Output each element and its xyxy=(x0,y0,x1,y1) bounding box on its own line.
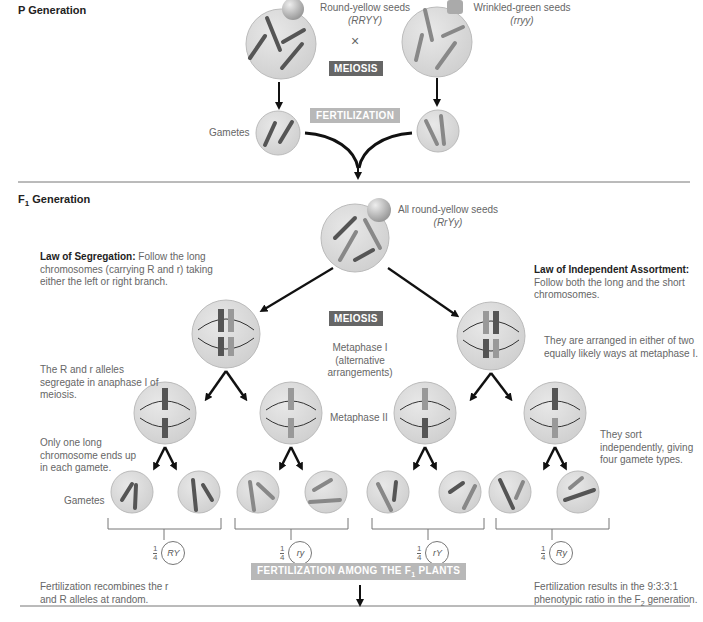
law-of-segregation: Law of Segregation: Follow the long chro… xyxy=(40,251,220,289)
cross-symbol: × xyxy=(351,35,359,48)
f1-phenotype: All round-yellow seeds xyxy=(388,204,508,217)
p-generation-title: P Generation xyxy=(18,4,86,16)
allele-circle: ry xyxy=(288,541,312,565)
parent2-label: Wrinkled-green seeds (rryy) xyxy=(462,2,582,27)
f1-offspring-label: All round-yellow seeds (RrYy) xyxy=(388,204,508,229)
fertilization-among-f1-badge: FERTILIZATION AMONG THE F1 PLANTS xyxy=(251,563,466,580)
parent2-phenotype: Wrinkled-green seeds xyxy=(462,2,582,15)
ratio-note-suffix: generation. xyxy=(645,594,698,605)
f1-genotype: (RrYy) xyxy=(388,217,508,230)
metaphase2-label: Metaphase II xyxy=(330,412,388,425)
recombine-note: Fertilization recombines the r and R all… xyxy=(40,581,180,606)
parent1-label: Round-yellow seeds (RRYY) xyxy=(305,2,425,27)
f1-gametes-label: Gametes xyxy=(64,495,105,508)
arranged-note: They are arranged in either of two equal… xyxy=(544,335,703,360)
gamete-type-ry: 14 ry xyxy=(279,541,312,565)
gamete-type-RY: 14 RY xyxy=(152,541,185,565)
law-of-independent-assortment: Law of Independent Assortment: Follow bo… xyxy=(534,264,703,302)
fraction: 14 xyxy=(279,545,285,562)
parent1-phenotype: Round-yellow seeds xyxy=(305,2,425,15)
p-gamete2 xyxy=(417,110,459,152)
f1-gamete-cells xyxy=(111,471,599,513)
badge-suffix: PLANTS xyxy=(415,565,460,576)
p-meiosis-badge: MEIOSIS xyxy=(329,61,383,76)
p-gametes-label: Gametes xyxy=(209,127,250,140)
metaphase1-label: Metaphase I (alternative arrangements) xyxy=(322,342,398,380)
law-independent-heading: Law of Independent Assortment: xyxy=(534,264,689,275)
ratio-note: Fertilization results in the 9:3:3:1 phe… xyxy=(534,581,703,610)
gamete-type-Ry: 14 Ry xyxy=(540,541,573,565)
fraction: 14 xyxy=(540,545,546,562)
p-fertilization-badge: FERTILIZATION xyxy=(310,108,400,123)
fraction: 14 xyxy=(416,545,422,562)
f1-title-suffix: Generation xyxy=(29,193,90,205)
gamete-type-rY: 14 rY xyxy=(416,541,449,565)
f1-cell xyxy=(321,198,391,272)
sort-note: They sort independently, giving four gam… xyxy=(600,429,700,467)
f1-generation-title: F1 Generation xyxy=(18,193,90,208)
law-segregation-heading: Law of Segregation: xyxy=(40,251,136,262)
metaphase1-right xyxy=(457,302,525,370)
parent2-genotype: (rryy) xyxy=(462,15,582,28)
parent1-genotype: (RRYY) xyxy=(305,15,425,28)
law-independent-text: Follow both the long and the short chrom… xyxy=(534,277,685,301)
allele-circle: RY xyxy=(161,541,185,565)
one-long-chromosome-note: Only one long chromosome ends up in each… xyxy=(40,437,140,475)
p-gamete1 xyxy=(256,111,300,155)
f1-title-prefix: F xyxy=(18,193,25,205)
segregate-note: The R and r alleles segregate in anaphas… xyxy=(40,364,170,402)
f1-meiosis-badge: MEIOSIS xyxy=(329,311,383,326)
fraction: 14 xyxy=(152,545,158,562)
allele-circle: rY xyxy=(425,541,449,565)
allele-circle: Ry xyxy=(549,541,573,565)
metaphase1-left xyxy=(192,300,260,368)
badge-prefix: FERTILIZATION AMONG THE F xyxy=(257,565,411,576)
